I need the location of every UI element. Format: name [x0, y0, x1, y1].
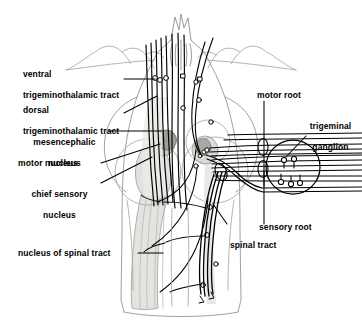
trigeminal-nerve-diagram: ventral trigeminothalamic tract dorsal t…	[0, 0, 362, 327]
midline-fiber-bundle	[172, 33, 187, 210]
label-dorsal-line1: dorsal	[23, 105, 49, 115]
label-spinal-tract: spinal tract	[230, 240, 277, 251]
label-mesencephalic-line1: mesencephalic	[33, 137, 95, 147]
label-chief-sensory-line1: chief sensory	[31, 189, 87, 199]
label-nucleus-of-spinal-tract: nucleus of spinal tract	[18, 248, 111, 259]
label-motor-nucleus: motor nucleus	[18, 158, 78, 169]
label-trigeminal-ganglion: trigeminal ganglion	[298, 110, 358, 152]
label-chief-sensory-line2: nucleus	[43, 210, 76, 220]
faint-overlay-circles	[115, 120, 248, 205]
label-trigeminal-ganglion-line1: trigeminal	[310, 121, 352, 131]
label-trigeminal-ganglion-line2: ganglion	[312, 142, 348, 152]
brainstem-dorsal-outline	[158, 14, 204, 70]
sensory-root-fibers	[212, 155, 362, 181]
label-sensory-root: sensory root	[259, 222, 312, 233]
label-chief-sensory-nucleus: chief sensory nucleus	[18, 178, 96, 220]
label-ventral-line1: ventral	[23, 69, 52, 79]
label-motor-root: motor root	[257, 90, 301, 101]
